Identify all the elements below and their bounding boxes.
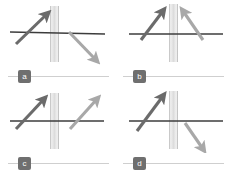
panel-a: a [0, 0, 115, 87]
vertical-slab-b [169, 4, 178, 62]
outgoing-ray-c [70, 99, 97, 129]
figure-panel-grid: a [0, 0, 230, 174]
outgoing-ray-d [185, 123, 203, 149]
caption-strip-c: c [0, 153, 115, 174]
caption-strip-b: b [115, 66, 230, 87]
panel-label-d: d [133, 157, 146, 170]
vertical-slab-d [169, 91, 178, 149]
panel-label-b: b [133, 70, 146, 83]
ray-diagram-a [0, 0, 115, 66]
panel-c: c [0, 87, 115, 174]
caption-strip-a: a [0, 66, 115, 87]
panel-d: d [115, 87, 230, 174]
incoming-ray-a [16, 14, 47, 44]
incoming-ray-c [16, 99, 44, 129]
panel-label-c: c [18, 157, 31, 170]
incoming-ray-b [141, 11, 163, 40]
incoming-ray-d [137, 96, 163, 131]
outgoing-ray-a [69, 32, 96, 60]
ray-diagram-d [115, 87, 230, 153]
panel-label-a: a [18, 70, 31, 83]
caption-strip-d: d [115, 153, 230, 174]
vertical-slab-a [50, 6, 59, 62]
ray-diagram-c [0, 87, 115, 153]
ray-diagram-b [115, 0, 230, 66]
outgoing-ray-b [183, 11, 203, 40]
panel-b: b [115, 0, 230, 87]
